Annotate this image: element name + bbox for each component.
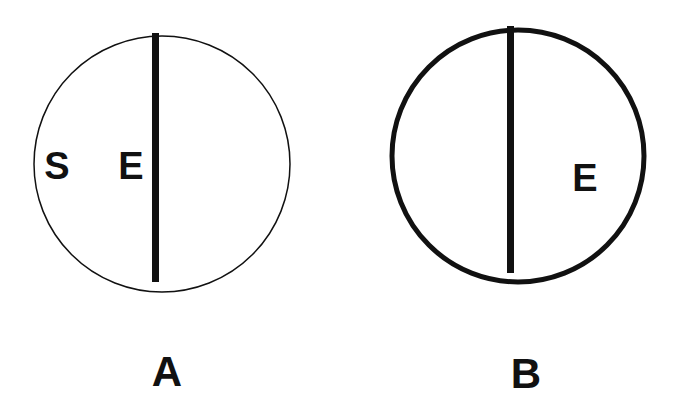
panel-a-letter-e: E	[118, 145, 143, 187]
diagram-canvas: S E A E B	[0, 0, 677, 420]
panel-a-letter-s: S	[44, 145, 69, 187]
panel-b-label: B	[511, 350, 541, 397]
panel-b: E B	[392, 26, 644, 397]
panel-b-circle	[392, 30, 644, 282]
panel-a: S E A	[34, 33, 290, 395]
panel-a-divider-bar	[152, 33, 159, 282]
panel-b-letter-e: E	[572, 157, 597, 199]
panel-b-divider-bar	[507, 26, 514, 273]
panel-a-label: A	[152, 348, 182, 395]
panel-a-circle	[34, 36, 290, 292]
